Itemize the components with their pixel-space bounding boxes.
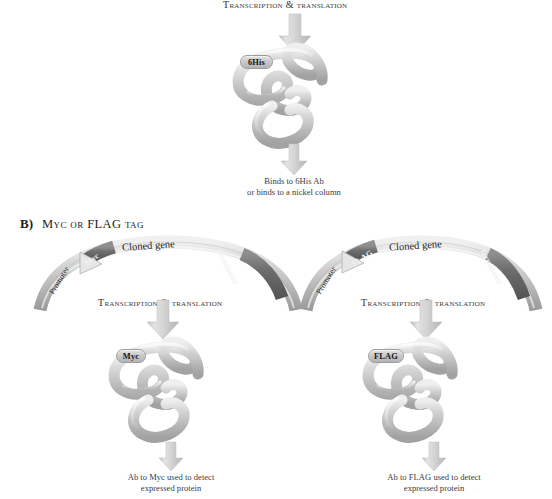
panel-b-right-caption-line2: expressed protein — [334, 483, 534, 494]
panel-a-result-line2: or binds to a nickel column — [194, 187, 394, 198]
panel-b-right-transcription-arrow — [409, 300, 443, 340]
panel-b-heading: B)Myc or FLAG tag — [20, 216, 144, 232]
panel-b-left-transcription-arrow — [146, 300, 180, 340]
panel-b-right-detection-arrow — [421, 442, 447, 472]
panel-b-right-caption: Ab to FLAG used to detect expressed prot… — [334, 472, 534, 494]
panel-b-left-caption-line2: expressed protein — [71, 483, 271, 494]
tag-pill-myc: Myc — [116, 349, 146, 363]
panel-b-letter: B) — [20, 216, 33, 231]
panel-a-binding-arrow — [280, 144, 308, 176]
figure-canvas: Transcription & translation 6His Binds t… — [0, 0, 552, 499]
panel-a-step-label: Transcription & translation — [189, 0, 381, 10]
panel-b-title: Myc or FLAG tag — [42, 217, 144, 231]
tag-pill-6his: 6His — [240, 55, 273, 69]
tag-pill-flag: FLAG — [368, 349, 404, 363]
panel-b-right-caption-line1: Ab to FLAG used to detect — [334, 472, 534, 483]
panel-a-result-caption: Binds to 6His Ab or binds to a nickel co… — [194, 176, 394, 198]
panel-b-left-caption: Ab to Myc used to detect expressed prote… — [71, 472, 271, 494]
panel-b-left-detection-arrow — [158, 442, 184, 472]
panel-a-result-line1: Binds to 6His Ab — [194, 176, 394, 187]
panel-b-left-caption-line1: Ab to Myc used to detect — [71, 472, 271, 483]
